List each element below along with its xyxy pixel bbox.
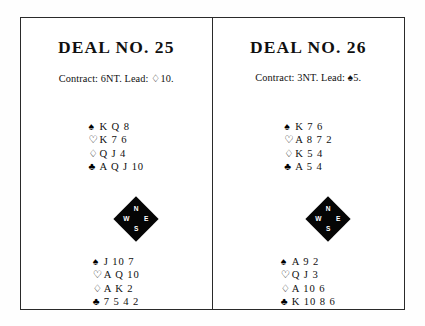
- deal-panel-26: DEAL NO. 26 Contract: 3NT. Lead: ♠5. ♠K …: [213, 18, 405, 309]
- north-diamonds: K 5 4: [295, 148, 323, 159]
- deal-title: DEAL NO. 25: [21, 37, 212, 58]
- north-clubs: A Q J 10: [99, 161, 144, 172]
- south-spades: A 9 2: [292, 256, 319, 267]
- club-icon: ♣: [284, 160, 295, 173]
- north-clubs-row: ♣A 5 4: [284, 160, 332, 173]
- south-hearts: Q J 3: [292, 269, 319, 280]
- deal-contract-line: Contract: 3NT. Lead: ♠5.: [213, 72, 405, 83]
- north-hand: ♠K Q 8 ♡K 7 6 ♢Q J 4 ♣A Q J 10: [21, 120, 212, 174]
- compass-west-label: W: [313, 215, 323, 222]
- south-clubs-row: ♣K 10 8 6: [281, 295, 336, 308]
- south-spades-row: ♠A 9 2: [281, 255, 336, 268]
- north-clubs-row: ♣A Q J 10: [88, 160, 144, 173]
- heart-icon: ♡: [93, 268, 104, 281]
- north-diamonds: Q J 4: [99, 148, 126, 159]
- north-diamonds-row: ♢K 5 4: [284, 147, 332, 160]
- compass-east-label: E: [141, 215, 151, 222]
- south-diamonds-row: ♢A 10 6: [281, 282, 336, 295]
- spade-icon: ♠: [93, 255, 104, 268]
- north-spades: K Q 8: [99, 121, 129, 132]
- north-clubs: A 5 4: [295, 161, 322, 172]
- compass-west-label: W: [121, 215, 131, 222]
- heart-icon: ♡: [88, 133, 99, 146]
- south-diamonds: A K 2: [104, 283, 134, 294]
- north-hearts: K 7 6: [99, 134, 127, 145]
- south-hearts-row: ♡A Q 10: [93, 268, 140, 281]
- club-icon: ♣: [281, 295, 292, 308]
- deal-contract-line: Contract: 6NT. Lead: ♢10.: [21, 72, 212, 84]
- heart-icon: ♡: [281, 268, 292, 281]
- compass-south-label: S: [131, 225, 141, 232]
- south-hand: ♠J 10 7 ♡A Q 10 ♢A K 2 ♣7 5 4 2: [21, 255, 212, 309]
- compass-east-label: E: [333, 215, 343, 222]
- compass-rose: N W E S: [113, 196, 159, 242]
- spade-icon: ♠: [88, 120, 99, 133]
- club-icon: ♣: [93, 295, 104, 308]
- club-icon: ♣: [88, 160, 99, 173]
- south-clubs-row: ♣7 5 4 2: [93, 295, 140, 308]
- compass-rose: N W E S: [305, 196, 351, 242]
- compass-north-label: N: [323, 205, 333, 212]
- south-diamonds: A 10 6: [292, 283, 326, 294]
- north-hearts-row: ♡A 8 7 2: [284, 133, 332, 146]
- diamond-icon: ♢: [281, 282, 292, 295]
- south-clubs: 7 5 4 2: [104, 296, 139, 307]
- diamond-icon: ♢: [93, 282, 104, 295]
- diamond-icon: ♢: [284, 147, 295, 160]
- south-diamonds-row: ♢A K 2: [93, 282, 140, 295]
- deal-sheet-frame: DEAL NO. 25 Contract: 6NT. Lead: ♢10. ♠K…: [20, 17, 405, 310]
- spade-icon: ♠: [284, 120, 295, 133]
- south-clubs: K 10 8 6: [292, 296, 336, 307]
- north-hearts-row: ♡K 7 6: [88, 133, 144, 146]
- diamond-icon: ♢: [88, 147, 99, 160]
- south-spades-row: ♠J 10 7: [93, 255, 140, 268]
- heart-icon: ♡: [284, 133, 295, 146]
- north-spades-row: ♠K 7 6: [284, 120, 332, 133]
- spade-icon: ♠: [281, 255, 292, 268]
- north-spades: K 7 6: [295, 121, 323, 132]
- south-spades: J 10 7: [104, 256, 135, 267]
- north-hearts: A 8 7 2: [295, 134, 332, 145]
- south-hearts: A Q 10: [104, 269, 140, 280]
- compass-north-label: N: [131, 205, 141, 212]
- page-canvas: DEAL NO. 25 Contract: 6NT. Lead: ♢10. ♠K…: [0, 0, 425, 326]
- north-hand: ♠K 7 6 ♡A 8 7 2 ♢K 5 4 ♣A 5 4: [213, 120, 405, 174]
- south-hand: ♠A 9 2 ♡Q J 3 ♢A 10 6 ♣K 10 8 6: [213, 255, 405, 309]
- deal-title: DEAL NO. 26: [213, 37, 405, 58]
- north-spades-row: ♠K Q 8: [88, 120, 144, 133]
- south-hearts-row: ♡Q J 3: [281, 268, 336, 281]
- compass-south-label: S: [323, 225, 333, 232]
- deal-panel-25: DEAL NO. 25 Contract: 6NT. Lead: ♢10. ♠K…: [21, 18, 213, 309]
- north-diamonds-row: ♢Q J 4: [88, 147, 144, 160]
